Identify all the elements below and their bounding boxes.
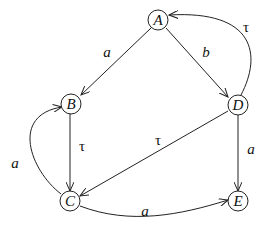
edge-label-A-D: b	[202, 44, 210, 60]
edge-label-C-B: a	[11, 155, 19, 171]
node-label-D: D	[232, 97, 244, 113]
transition-diagram: a b τ τ a τ a a A B C D E	[0, 0, 266, 230]
edge-D-A	[169, 15, 251, 95]
node-C: C	[60, 191, 80, 211]
edge-label-A-B: a	[103, 44, 111, 60]
diagram-svg: a b τ τ a τ a a A B C D E	[0, 0, 266, 230]
edge-D-C	[80, 111, 228, 196]
edge-label-B-C: τ	[79, 138, 85, 154]
node-B: B	[61, 94, 81, 114]
edge-label-D-A: τ	[243, 19, 249, 35]
edge-label-D-C: τ	[155, 132, 161, 148]
edge-C-E	[80, 200, 228, 216]
node-D: D	[228, 95, 248, 115]
edge-label-D-E: a	[247, 141, 255, 157]
edge-A-B	[81, 28, 151, 95]
edge-C-B	[30, 107, 62, 194]
edge-A-D	[166, 28, 228, 97]
node-label-A: A	[152, 12, 163, 28]
node-E: E	[228, 191, 248, 211]
node-A: A	[148, 10, 168, 30]
node-label-E: E	[232, 193, 242, 209]
node-label-B: B	[66, 96, 75, 112]
node-label-C: C	[65, 193, 76, 209]
edge-label-C-E: a	[141, 203, 149, 219]
